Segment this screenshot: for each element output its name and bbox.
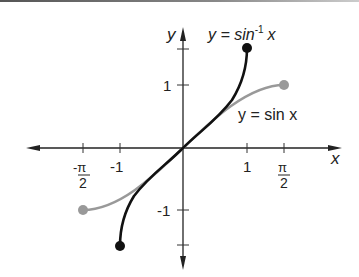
chart: y x -π 2 -1 1 π 2 1 -1 y = sin-1x y = si…	[0, 0, 359, 277]
xtick-neg-1: -1	[110, 158, 123, 175]
xtick-1: 1	[243, 158, 251, 175]
sin-endpoint-left	[78, 205, 88, 215]
x-axis-label: x	[330, 149, 340, 168]
arcsin-endpoint-top	[242, 43, 252, 53]
xtick-pi-over-2-bottom: 2	[280, 175, 288, 191]
xtick-neg-pi-over-2-bottom: 2	[79, 175, 87, 191]
y-axis-label: y	[166, 25, 177, 44]
arcsin-annotation-sup: -1	[255, 24, 264, 35]
y-axis-up-arrow-icon	[180, 27, 186, 41]
y-axis-down-arrow-icon	[180, 256, 186, 270]
arcsin-endpoint-bottom	[115, 241, 125, 251]
ytick-neg-1: -1	[157, 202, 170, 219]
sin-annotation: y = sin x	[238, 106, 297, 123]
arcsin-annotation: y = sin-1x	[207, 24, 277, 43]
xtick-pi-over-2-top: π	[278, 160, 287, 175]
x-axis-left-arrow-icon	[26, 145, 40, 151]
sin-endpoint-right	[279, 80, 289, 90]
arcsin-annotation-main: y = sin	[207, 26, 255, 43]
xtick-neg-pi-over-2-top: -π	[73, 160, 86, 175]
arcsin-annotation-tail: x	[267, 26, 277, 43]
ytick-1: 1	[163, 77, 171, 94]
